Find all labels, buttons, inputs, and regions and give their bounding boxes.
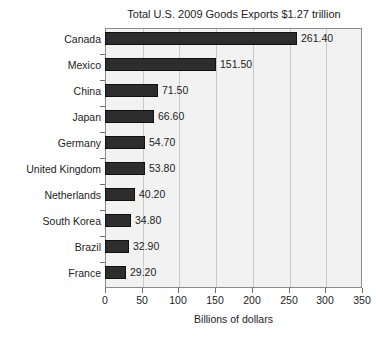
bars-layer: 261.40151.5071.5066.6054.7053.8040.2034.… (105, 28, 362, 288)
bar-row: 53.80 (105, 158, 362, 184)
bar-row: 71.50 (105, 80, 362, 106)
bar-row: 54.70 (105, 132, 362, 158)
x-axis-tick-label: 0 (102, 294, 108, 307)
bar-value-label: 53.80 (149, 160, 175, 176)
x-axis-tick (252, 288, 253, 293)
bar-value-label: 54.70 (149, 134, 175, 150)
bar-value-label: 261.40 (301, 30, 333, 46)
bar[interactable] (105, 110, 154, 123)
category-label: Mexico (0, 58, 101, 72)
bar[interactable] (105, 266, 126, 279)
category-label: Netherlands (0, 188, 101, 202)
bar-value-label: 71.50 (162, 82, 188, 98)
x-axis-tick (289, 288, 290, 293)
bar-row: 40.20 (105, 184, 362, 210)
bar[interactable] (105, 240, 129, 253)
bar-row: 34.80 (105, 210, 362, 236)
category-label: Brazil (0, 240, 101, 254)
x-axis-tick (105, 288, 106, 293)
bar[interactable] (105, 136, 145, 149)
category-label: Germany (0, 136, 101, 150)
bar[interactable] (105, 188, 135, 201)
x-axis-tick-label: 150 (206, 294, 224, 307)
bar-chart: Total U.S. 2009 Goods Exports $1.27 tril… (0, 0, 376, 340)
bar[interactable] (105, 58, 216, 71)
bar-row: 32.90 (105, 236, 362, 262)
bar-value-label: 29.20 (130, 264, 156, 280)
x-axis-tick (362, 288, 363, 293)
category-label: United Kingdom (0, 162, 101, 176)
x-axis-tick-label: 300 (316, 294, 334, 307)
bar[interactable] (105, 84, 158, 97)
x-axis-tick-label: 50 (136, 294, 148, 307)
bar[interactable] (105, 162, 145, 175)
x-axis-tick (142, 288, 143, 293)
bar-value-label: 40.20 (139, 186, 165, 202)
x-axis-tick (178, 288, 179, 293)
bar-value-label: 66.60 (158, 108, 184, 124)
x-axis-tick-label: 100 (169, 294, 187, 307)
bar-row: 261.40 (105, 28, 362, 54)
category-label: France (0, 266, 101, 280)
bar-row: 66.60 (105, 106, 362, 132)
chart-title: Total U.S. 2009 Goods Exports $1.27 tril… (105, 8, 363, 21)
category-label: China (0, 84, 101, 98)
x-axis-tick-label: 350 (353, 294, 371, 307)
bar-row: 151.50 (105, 54, 362, 80)
x-axis-tick (215, 288, 216, 293)
x-axis-tick-label: 250 (280, 294, 298, 307)
bar-value-label: 151.50 (220, 56, 252, 72)
x-axis-tick (325, 288, 326, 293)
x-axis-tick-label: 200 (243, 294, 261, 307)
category-label: South Korea (0, 214, 101, 228)
category-axis-labels: CanadaMexicoChinaJapanGermanyUnited King… (0, 28, 101, 288)
bar-value-label: 34.80 (135, 212, 161, 228)
bar-row: 29.20 (105, 262, 362, 288)
bar[interactable] (105, 214, 131, 227)
category-label: Canada (0, 32, 101, 46)
bar-value-label: 32.90 (133, 238, 159, 254)
category-label: Japan (0, 110, 101, 124)
bar[interactable] (105, 32, 297, 45)
x-axis-title: Billions of dollars (105, 313, 362, 326)
